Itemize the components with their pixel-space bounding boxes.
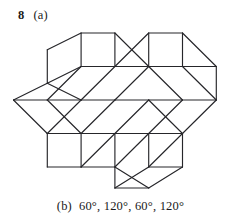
tiling-edge xyxy=(115,134,149,168)
tiling-edge xyxy=(47,67,81,84)
rhombus-tiling-figure xyxy=(0,0,241,216)
tiling-edge xyxy=(115,67,149,101)
tiling-edge xyxy=(47,67,81,101)
part-b-tag: (b) xyxy=(57,199,72,213)
tiling-edge xyxy=(183,67,217,101)
tiling-edge xyxy=(183,33,217,67)
figure-page: 8(a) (b)60°, 120°, 60°, 120° xyxy=(0,0,241,216)
tiling-edge xyxy=(115,100,149,134)
tiling-edge xyxy=(149,167,183,188)
tiling-line-group xyxy=(14,33,217,188)
tiling-edge xyxy=(47,33,81,50)
tiling-edge xyxy=(47,83,81,100)
angle-answer-text: 60°, 120°, 60°, 120° xyxy=(79,199,184,213)
tiling-edge xyxy=(149,67,183,101)
tiling-edge xyxy=(14,83,48,100)
tiling-edge xyxy=(14,100,48,134)
tiling-edge xyxy=(81,100,115,134)
tiling-edge xyxy=(183,100,217,134)
tiling-edge xyxy=(81,134,115,168)
tiling-edge xyxy=(149,134,183,168)
tiling-edge xyxy=(81,67,115,101)
bottom-label: (b)60°, 120°, 60°, 120° xyxy=(0,200,241,213)
